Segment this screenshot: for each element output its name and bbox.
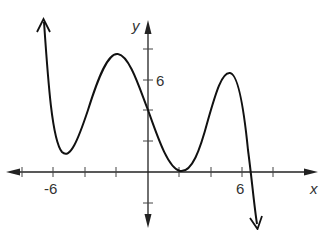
y-axis-down-arrow-icon <box>145 214 152 228</box>
x-tick-label-6: 6 <box>236 180 244 197</box>
curve <box>37 19 262 229</box>
y-axis-label: y <box>131 17 141 34</box>
x-axis <box>6 167 318 177</box>
x-axis-left-arrow-icon <box>6 169 20 176</box>
y-axis-up-arrow-icon <box>145 20 152 34</box>
y-tick-label-6: 6 <box>156 72 164 89</box>
y-axis <box>143 20 153 228</box>
polynomial-graph: -6 6 6 x y <box>0 0 327 230</box>
x-axis-label: x <box>309 180 318 197</box>
x-tick-label-neg6: -6 <box>44 180 57 197</box>
x-axis-right-arrow-icon <box>304 169 318 176</box>
